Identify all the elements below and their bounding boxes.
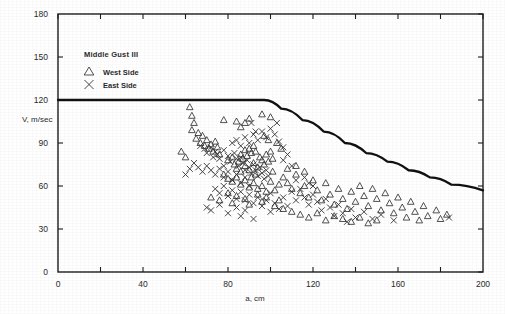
y-tick-label: 0 bbox=[43, 267, 48, 277]
y-axis-title: V, m/sec bbox=[22, 115, 52, 124]
y-tick-label: 120 bbox=[34, 95, 48, 105]
y-tick-label: 60 bbox=[39, 181, 49, 191]
legend-title: Middle Gust III bbox=[84, 50, 138, 59]
x-tick-label: 160 bbox=[391, 279, 405, 289]
x-axis-title: a, cm bbox=[245, 294, 265, 303]
x-tick-label: 40 bbox=[138, 279, 148, 289]
legend-label-east-side: East Side bbox=[103, 81, 137, 90]
scatter-chart: 0306090120150180 04080120160200 V, m/sec… bbox=[0, 0, 505, 314]
x-tick-label: 200 bbox=[476, 279, 490, 289]
y-tick-label: 180 bbox=[34, 9, 48, 19]
x-tick-label: 120 bbox=[306, 279, 320, 289]
x-tick-label: 80 bbox=[223, 279, 233, 289]
y-tick-label: 90 bbox=[39, 138, 49, 148]
chart-background bbox=[0, 0, 505, 314]
x-tick-label: 0 bbox=[56, 279, 61, 289]
legend-label-west-side: West Side bbox=[103, 68, 139, 77]
y-tick-label: 30 bbox=[39, 224, 49, 234]
y-tick-label: 150 bbox=[34, 52, 48, 62]
